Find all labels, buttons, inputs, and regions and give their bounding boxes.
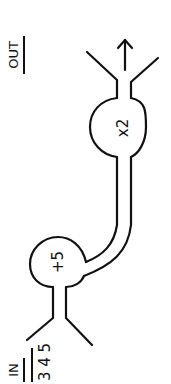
arrow-up-icon — [118, 40, 132, 70]
input-funnel — [27, 287, 92, 345]
add-node-label: +5 — [49, 251, 67, 273]
output-label-text: OUT — [6, 41, 21, 69]
output-funnel — [87, 52, 158, 98]
svg-text:3 4 5: 3 4 5 — [36, 343, 54, 381]
svg-text:x2: x2 — [114, 119, 132, 137]
output-label: OUT — [6, 41, 21, 69]
input-label: IN — [6, 363, 21, 377]
pipeline-diagram: OUT x2 +5 IN 3 4 5 — [0, 0, 171, 384]
connector-tube-left — [86, 157, 117, 262]
svg-text:+5: +5 — [49, 251, 67, 273]
multiply-node-label: x2 — [114, 119, 132, 137]
input-values: 3 4 5 — [36, 343, 54, 381]
svg-text:IN: IN — [6, 363, 21, 377]
connector-tube-right — [84, 157, 131, 276]
